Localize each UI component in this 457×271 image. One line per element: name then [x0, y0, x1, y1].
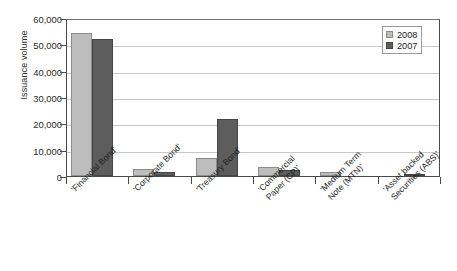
x-tick-mark [378, 177, 379, 184]
bar-chart: Issuance volume 010,00020,00030,00040,00… [0, 0, 457, 271]
legend-item-2007: 2007 [386, 40, 417, 51]
x-tick-mark [315, 177, 316, 184]
gridline [67, 99, 439, 100]
y-tick-label: 50,000 [10, 40, 62, 51]
y-tick-label: 0 [10, 172, 62, 183]
legend-swatch-2008 [386, 31, 393, 38]
legend-swatch-2007 [386, 42, 393, 49]
y-tick-label: 60,000 [10, 14, 62, 25]
x-tick-mark [253, 177, 254, 184]
legend-label: 2007 [397, 41, 417, 51]
y-tick-label: 10,000 [10, 145, 62, 156]
y-tick-label: 30,000 [10, 93, 62, 104]
x-tick-mark [66, 177, 67, 184]
x-tick-mark [440, 177, 441, 184]
x-tick-mark [191, 177, 192, 184]
y-tick-label: 40,000 [10, 66, 62, 77]
gridline [67, 125, 439, 126]
gridline [67, 73, 439, 74]
gridline [67, 152, 439, 153]
legend-item-2008: 2008 [386, 29, 417, 40]
y-tick-label: 20,000 [10, 119, 62, 130]
bar-2008-0 [71, 33, 92, 176]
x-tick-mark [128, 177, 129, 184]
chart-legend: 20082007 [382, 26, 422, 54]
legend-label: 2008 [397, 30, 417, 40]
